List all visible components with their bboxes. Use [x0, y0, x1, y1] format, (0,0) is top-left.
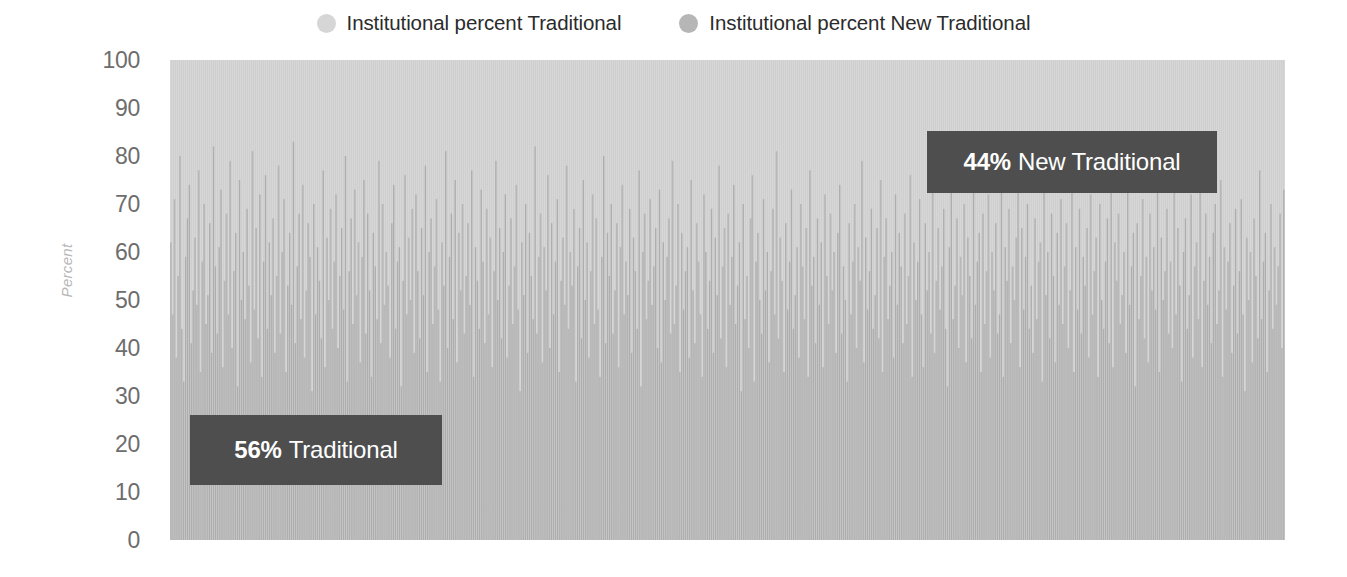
legend-label-new-traditional: Institutional percent New Traditional: [709, 11, 1030, 35]
y-axis-tick: 60: [115, 239, 140, 266]
y-axis-tick: 90: [115, 95, 140, 122]
annotation-new-traditional-percent: 44%: [964, 148, 1011, 176]
annotation-new-traditional: 44% New Traditional: [927, 131, 1217, 193]
y-axis-ticks: 1009080706050403020100: [62, 60, 154, 540]
y-axis-tick: 30: [115, 383, 140, 410]
y-axis-tick: 0: [128, 527, 141, 554]
legend-entry-new-traditional[interactable]: Institutional percent New Traditional: [679, 11, 1030, 35]
y-axis-tick: 80: [115, 143, 140, 170]
y-axis-tick: 50: [115, 287, 140, 314]
annotation-traditional-percent: 56%: [234, 436, 281, 464]
y-axis-tick: 10: [115, 479, 140, 506]
legend-entry-traditional[interactable]: Institutional percent Traditional: [317, 11, 622, 35]
chart-legend: Institutional percent Traditional Instit…: [0, 0, 1347, 46]
annotation-traditional-label: Traditional: [289, 436, 398, 464]
legend-label-traditional: Institutional percent Traditional: [347, 11, 622, 35]
y-axis-tick: 40: [115, 335, 140, 362]
y-axis-tick: 100: [103, 47, 140, 74]
circle-swatch-icon: [679, 14, 698, 33]
annotation-new-traditional-label: New Traditional: [1018, 148, 1180, 176]
chart-root: Institutional percent Traditional Instit…: [0, 0, 1347, 577]
y-axis-tick: 20: [115, 431, 140, 458]
y-axis-tick: 70: [115, 191, 140, 218]
circle-swatch-icon: [317, 14, 336, 33]
annotation-traditional: 56% Traditional: [190, 415, 442, 485]
